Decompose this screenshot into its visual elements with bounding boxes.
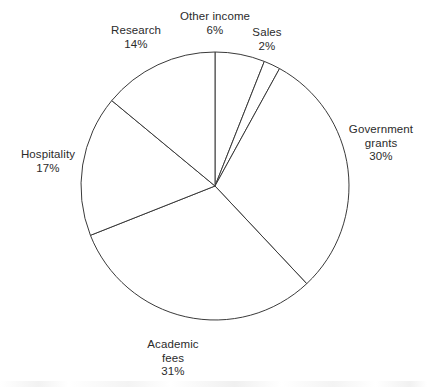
slice-label-academic-fees-name2: fees bbox=[118, 352, 228, 366]
slice-label-academic-fees-percent: 31% bbox=[118, 365, 228, 379]
slice-label-hospitality-percent: 17% bbox=[5, 162, 91, 176]
pie-slices-group bbox=[81, 52, 349, 320]
slice-label-sales-name: Sales bbox=[232, 26, 302, 40]
slice-label-research-percent: 14% bbox=[95, 38, 177, 52]
pie-chart-canvas bbox=[0, 0, 427, 387]
slice-label-government-grants-name2: grants bbox=[337, 137, 425, 151]
slice-label-academic-fees-name1: Academic bbox=[118, 338, 228, 352]
slice-label-government-grants: Government grants 30% bbox=[337, 123, 425, 164]
slice-label-other-income-name: Other income bbox=[155, 10, 275, 24]
slice-label-hospitality-name: Hospitality bbox=[5, 148, 91, 162]
slice-label-sales-percent: 2% bbox=[232, 40, 302, 54]
pie-chart-figure: Research 14% Other income 6% Sales 2% Go… bbox=[0, 0, 427, 387]
slice-label-sales: Sales 2% bbox=[232, 26, 302, 53]
slice-label-academic-fees: Academic fees 31% bbox=[118, 338, 228, 379]
slice-label-government-grants-name1: Government bbox=[337, 123, 425, 137]
slice-label-hospitality: Hospitality 17% bbox=[5, 148, 91, 175]
slice-label-government-grants-percent: 30% bbox=[337, 150, 425, 164]
